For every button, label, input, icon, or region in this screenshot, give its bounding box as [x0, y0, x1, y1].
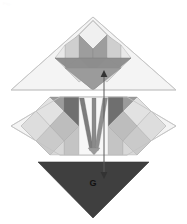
quilt-diagram-canvas: G: [0, 0, 187, 224]
center-stripe-middle: [92, 98, 96, 151]
figure-faint-caption: Fig.: [3, 1, 12, 6]
bottom-triangle-label: G: [89, 178, 96, 188]
